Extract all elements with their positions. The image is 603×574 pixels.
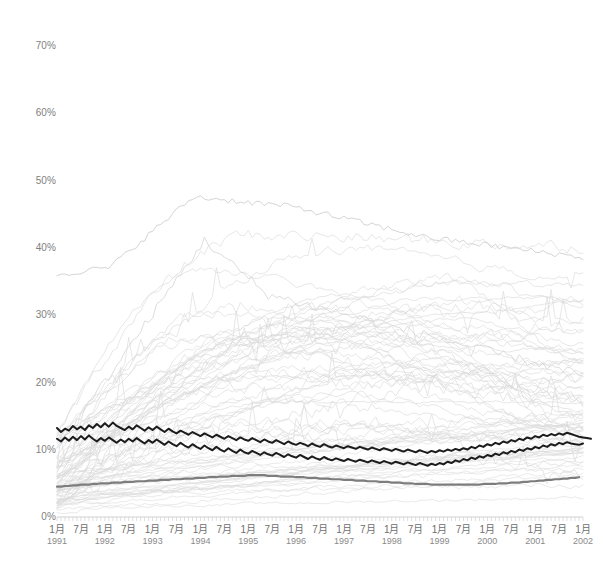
background-series-peak-line [57, 196, 583, 276]
xtick-year-label: 1999 [423, 536, 457, 546]
chart-plot-area [0, 0, 603, 574]
ytick-label-70: 70% [22, 40, 56, 51]
ytick-label-40: 40% [22, 242, 56, 253]
xtick-year-label: 2002 [566, 536, 600, 546]
xtick-year-label: 2000 [470, 536, 504, 546]
xtick-year-label: 1994 [183, 536, 217, 546]
xtick-year-label: 1995 [231, 536, 265, 546]
xtick-year-label: 2001 [518, 536, 552, 546]
spaghetti-line-chart: 70% 60% 50% 40% 30% 20% 10% 0% 1月19917月1… [0, 0, 603, 574]
xtick-year-label: 1992 [88, 536, 122, 546]
ytick-label-60: 60% [22, 107, 56, 118]
xtick-year-label: 1991 [40, 536, 74, 546]
xtick-year-label: 1998 [375, 536, 409, 546]
xtick-year-label: 1996 [279, 536, 313, 546]
background-series-line [57, 280, 583, 479]
xtick-year-label: 1997 [327, 536, 361, 546]
ytick-label-20: 20% [22, 377, 56, 388]
background-series-line [57, 391, 583, 467]
ytick-label-30: 30% [22, 309, 56, 320]
xtick-year-label: 1993 [136, 536, 170, 546]
xtick-month-label: 1月 [568, 521, 598, 536]
background-series-line [57, 496, 583, 510]
ytick-label-10: 10% [22, 444, 56, 455]
ytick-label-50: 50% [22, 175, 56, 186]
